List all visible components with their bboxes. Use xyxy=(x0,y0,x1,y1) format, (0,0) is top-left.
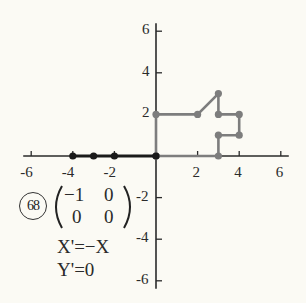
original-point xyxy=(152,111,159,118)
x-tick-label: 6 xyxy=(276,164,284,181)
image-point xyxy=(69,152,76,159)
x-tick-label: -2 xyxy=(103,164,116,181)
original-point xyxy=(236,111,243,118)
x-tick-label: 2 xyxy=(193,164,201,181)
matrix-a22: 0 xyxy=(104,206,114,228)
matrix-a21: 0 xyxy=(72,206,82,228)
problem-number: 68 xyxy=(19,192,47,220)
image-point xyxy=(111,152,118,159)
matrix-a12: 0 xyxy=(104,184,114,206)
image-point xyxy=(90,152,97,159)
original-point xyxy=(215,90,222,97)
x-tick-label: -4 xyxy=(62,164,75,181)
original-point xyxy=(215,132,222,139)
y-tick-label: -4 xyxy=(136,229,149,246)
equation-x: X'=−X xyxy=(57,236,109,258)
y-tick-label: 2 xyxy=(142,104,150,121)
original-point xyxy=(236,132,243,139)
original-point xyxy=(215,111,222,118)
x-tick-label: 4 xyxy=(234,164,242,181)
original-point xyxy=(215,152,222,159)
matrix-a11: −1 xyxy=(64,184,84,206)
x-tick-label: -6 xyxy=(20,164,33,181)
y-tick-label: 4 xyxy=(142,63,150,80)
coordinate-plane xyxy=(0,0,306,303)
equation-y: Y'=0 xyxy=(57,259,94,281)
image-point xyxy=(152,152,159,159)
y-tick-label: -6 xyxy=(136,271,149,288)
y-tick-label: -2 xyxy=(136,188,149,205)
original-point xyxy=(194,111,201,118)
y-tick-label: 6 xyxy=(142,21,150,38)
original-shape xyxy=(156,94,239,156)
